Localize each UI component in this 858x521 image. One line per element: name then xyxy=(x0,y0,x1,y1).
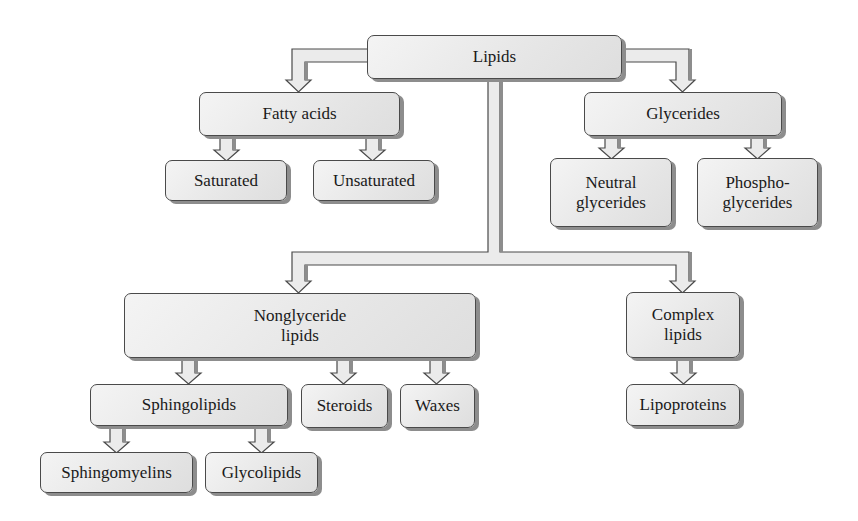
arrow-lipids-to-glycerides xyxy=(622,49,695,92)
node-label-line1: Nonglyceride xyxy=(254,306,347,326)
node-label-line2: lipids xyxy=(281,326,319,346)
node-label: Steroids xyxy=(317,396,373,416)
node-label-line1: Complex xyxy=(652,305,714,325)
arrow-lipids-to-fatty-acids xyxy=(286,49,367,92)
node-fatty-acids: Fatty acids xyxy=(199,92,400,136)
lipid-classification-diagram: Lipids Fatty acids Glycerides Saturated … xyxy=(0,0,858,521)
node-saturated: Saturated xyxy=(165,160,287,201)
node-lipoproteins: Lipoproteins xyxy=(626,384,740,426)
node-sphingomyelins: Sphingomyelins xyxy=(40,452,193,493)
node-label: Saturated xyxy=(194,171,258,191)
node-label-line2: glycerides xyxy=(576,193,646,213)
node-phosphoglycerides: Phospho- glycerides xyxy=(697,158,818,227)
node-label-line1: Phospho- xyxy=(725,173,789,193)
node-neutral-glycerides: Neutral glycerides xyxy=(550,158,672,227)
node-label: Waxes xyxy=(415,396,460,416)
node-label-line1: Neutral xyxy=(586,173,637,193)
node-label: Glycolipids xyxy=(222,463,301,483)
node-glycolipids: Glycolipids xyxy=(205,452,318,493)
node-label-line2: glycerides xyxy=(723,193,793,213)
node-label: Fatty acids xyxy=(262,104,336,124)
node-complex-lipids: Complex lipids xyxy=(626,292,740,358)
node-label: Lipids xyxy=(473,47,516,67)
node-label-line2: lipids xyxy=(664,325,702,345)
node-label: Sphingolipids xyxy=(142,395,236,415)
node-lipids: Lipids xyxy=(367,35,622,79)
node-label: Glycerides xyxy=(646,104,720,124)
node-label: Unsaturated xyxy=(333,171,415,191)
node-label: Sphingomyelins xyxy=(61,463,172,483)
node-waxes: Waxes xyxy=(400,384,475,428)
node-label: Lipoproteins xyxy=(640,395,727,415)
node-glycerides: Glycerides xyxy=(584,92,782,136)
node-nonglyceride-lipids: Nonglyceride lipids xyxy=(124,293,476,358)
node-sphingolipids: Sphingolipids xyxy=(90,384,288,426)
node-steroids: Steroids xyxy=(301,384,388,428)
node-unsaturated: Unsaturated xyxy=(313,160,435,201)
